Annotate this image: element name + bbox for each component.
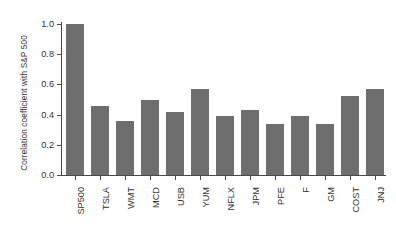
x-tick-label: USB (175, 187, 187, 233)
bar (66, 24, 84, 175)
x-tick-mark (375, 175, 376, 180)
bar (266, 124, 284, 175)
y-axis-tick-labels: 0.00.20.40.60.81.0 (32, 0, 54, 233)
bar (191, 89, 209, 175)
bar (291, 116, 309, 175)
x-tick-label: TSLA (100, 187, 112, 233)
x-tick-mark (350, 175, 351, 180)
x-tick-label: COST (350, 187, 362, 233)
x-tick-mark (225, 175, 226, 180)
x-tick-label: YUM (200, 187, 212, 233)
x-tick-mark (150, 175, 151, 180)
x-axis-tick-labels: SP500TSLAWMTMCDUSBYUMNFLXJPMPFEFGMCOSTJN… (61, 181, 386, 233)
bar (341, 96, 359, 175)
x-tick-mark (300, 175, 301, 180)
y-tick-label: 0.2 (32, 140, 54, 149)
x-tick-label: F (300, 187, 312, 233)
x-tick-label: PFE (275, 187, 287, 233)
plot-area (61, 14, 386, 175)
y-tick-label: 0.8 (32, 50, 54, 59)
bar (241, 110, 259, 175)
y-tick-label: 0.4 (32, 110, 54, 119)
x-tick-label: MCD (150, 187, 162, 233)
bar (216, 116, 234, 175)
y-tick-label: 1.0 (32, 20, 54, 29)
x-tick-mark (75, 175, 76, 180)
bar (166, 112, 184, 175)
x-tick-mark (125, 175, 126, 180)
bar (366, 89, 384, 175)
x-tick-label: GM (325, 187, 337, 233)
x-tick-mark (275, 175, 276, 180)
bar (141, 100, 159, 176)
correlation-bar-chart: Correlation coefficient with S&P 500 0.0… (0, 0, 396, 233)
x-tick-mark (175, 175, 176, 180)
y-tick-label: 0.0 (32, 171, 54, 180)
y-axis-title: Correlation coefficient with S&P 500 (18, 23, 32, 183)
x-tick-mark (100, 175, 101, 180)
bar (116, 121, 134, 175)
bar (316, 124, 334, 175)
x-tick-mark (325, 175, 326, 180)
x-tick-label: WMT (125, 187, 137, 233)
x-tick-label: NFLX (225, 187, 237, 233)
x-tick-label: JNJ (375, 187, 387, 233)
y-tick-label: 0.6 (32, 80, 54, 89)
x-tick-label: JPM (250, 187, 262, 233)
x-tick-mark (200, 175, 201, 180)
x-tick-label: SP500 (75, 187, 87, 233)
x-tick-mark (250, 175, 251, 180)
bar (91, 106, 109, 175)
